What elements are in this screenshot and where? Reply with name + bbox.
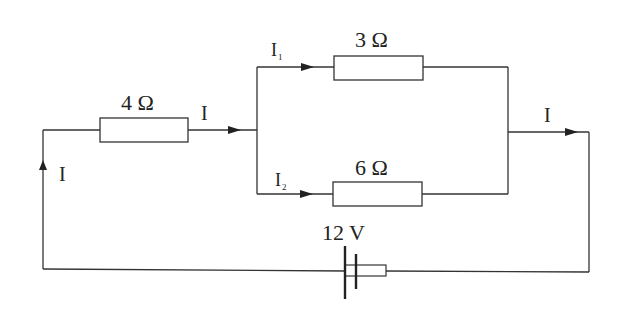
- resistor-6-ohm: [333, 182, 422, 206]
- battery-symbol: [345, 246, 386, 299]
- resistor-6-ohm-label: 6 Ω: [355, 155, 388, 180]
- battery-voltage-label: 12 V: [322, 220, 365, 245]
- arrow-right-icon: [565, 128, 578, 136]
- resistor-4-ohm: [100, 118, 188, 142]
- current-label-series: I: [201, 102, 208, 124]
- current-i1-subscript: 1: [278, 52, 283, 62]
- battery-terminal: [345, 265, 386, 276]
- arrow-right-icon: [228, 126, 241, 134]
- current-i1-main: I: [271, 40, 277, 60]
- resistor-3-ohm-label: 3 Ω: [355, 27, 388, 52]
- current-label-left: I: [59, 163, 66, 185]
- wire-bottom-right: [386, 271, 589, 272]
- arrow-right-icon: [300, 190, 313, 198]
- arrow-right-icon: [301, 63, 314, 71]
- current-label-right: I: [544, 104, 551, 126]
- circuit-diagram: 4 Ω 3 Ω 6 Ω 12 V I I I I1 I2: [0, 0, 621, 319]
- wire-bottom-left: [43, 269, 346, 271]
- resistor-4-ohm-label: 4 Ω: [121, 90, 154, 115]
- current-i2-subscript: 2: [282, 182, 287, 192]
- resistor-3-ohm: [334, 56, 423, 80]
- arrow-up-icon: [39, 160, 47, 170]
- current-i2-main: I: [275, 170, 281, 190]
- current-label-i2: I2: [275, 170, 287, 192]
- current-label-i1: I1: [271, 40, 283, 62]
